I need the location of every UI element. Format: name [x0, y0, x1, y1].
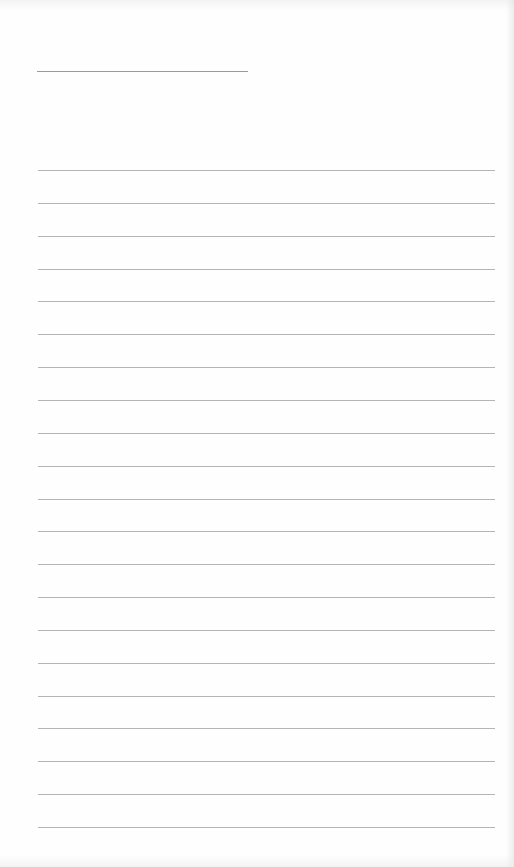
lined-page: [0, 0, 514, 867]
writing-line: [38, 761, 495, 762]
writing-line: [38, 334, 495, 335]
writing-line: [38, 531, 495, 532]
writing-line: [38, 466, 495, 467]
writing-line: [38, 499, 495, 500]
writing-line: [38, 203, 495, 204]
writing-line: [38, 827, 495, 828]
writing-line: [38, 269, 495, 270]
writing-line: [38, 400, 495, 401]
writing-line: [38, 597, 495, 598]
writing-line: [38, 696, 495, 697]
writing-line: [38, 663, 495, 664]
writing-line: [38, 794, 495, 795]
header-name-line: [37, 71, 248, 72]
writing-line: [38, 236, 495, 237]
right-edge-shadow: [506, 0, 514, 867]
bottom-edge-shadow: [0, 855, 514, 867]
top-edge-shadow: [0, 0, 514, 10]
writing-line: [38, 433, 495, 434]
writing-line: [38, 728, 495, 729]
writing-line: [38, 630, 495, 631]
writing-line: [38, 170, 495, 171]
writing-line: [38, 564, 495, 565]
writing-line: [38, 301, 495, 302]
writing-line: [38, 367, 495, 368]
